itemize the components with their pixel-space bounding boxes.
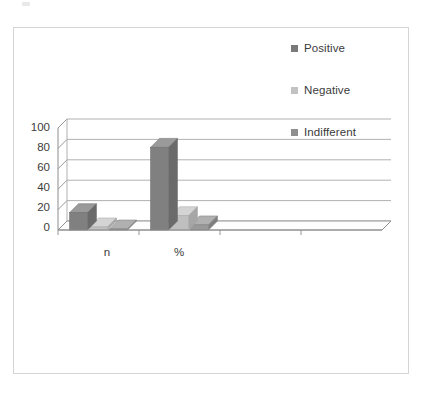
x-axis-tick-labels: n % <box>16 246 396 262</box>
legend-label-positive: Positive <box>304 42 345 54</box>
y-tick-80: 80 <box>16 142 50 153</box>
chart-3d-body <box>54 118 394 248</box>
legend-item-negative[interactable]: Negative <box>291 83 421 97</box>
y-tick-100: 100 <box>16 122 50 133</box>
x-tick-pct: % <box>159 246 199 258</box>
y-tick-60: 60 <box>16 162 50 173</box>
y-tick-40: 40 <box>16 182 50 193</box>
y-axis-tick-labels: 100 80 60 40 20 0 <box>16 118 50 248</box>
chart-canvas <box>54 118 394 248</box>
chart-screenshot: Positive Negative Indifferent 100 80 60 … <box>0 0 431 394</box>
legend-swatch-positive <box>291 45 298 52</box>
y-tick-0: 0 <box>16 222 50 233</box>
scan-artifact <box>22 2 30 6</box>
legend-swatch-negative <box>291 87 298 94</box>
x-tick-n: n <box>87 246 127 258</box>
legend-item-positive[interactable]: Positive <box>291 41 421 55</box>
legend-label-negative: Negative <box>304 84 350 96</box>
y-tick-20: 20 <box>16 202 50 213</box>
plot-area: 100 80 60 40 20 0 <box>16 118 396 248</box>
